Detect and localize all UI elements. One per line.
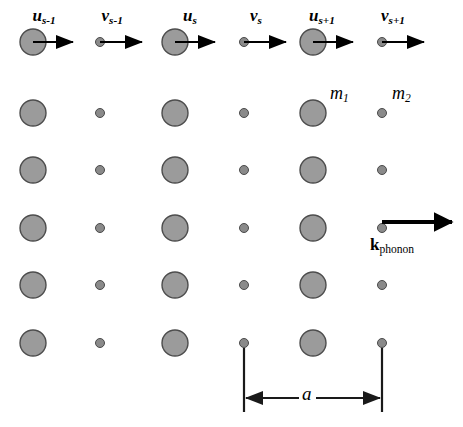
atom-small-r3-c2 <box>378 224 387 233</box>
displacement-label-u-0-symbol: u <box>33 6 42 25</box>
phonon-wavevector-label-subscript: phonon <box>379 243 414 256</box>
atom-large-r3-c0 <box>20 215 46 241</box>
displacement-label-u-0-subscript: s-1 <box>42 14 56 26</box>
mass-label-m1-subscript: 1 <box>343 92 349 104</box>
atom-small-r1-c0 <box>96 109 105 118</box>
displacement-label-v-5-subscript: s+1 <box>389 14 405 26</box>
atom-small-r5-c0 <box>96 339 105 348</box>
mass-label-m1-symbol: m <box>330 83 343 103</box>
atom-small-r4-c0 <box>96 281 105 290</box>
atom-large-r4-c1 <box>162 272 188 298</box>
displacement-label-v-1: vs-1 <box>102 7 123 26</box>
atom-large-r5-c2 <box>300 330 326 356</box>
mass-label-m2-symbol: m <box>392 83 405 103</box>
atom-small-r3-c0 <box>96 224 105 233</box>
displacement-label-v-1-subscript: s-1 <box>109 14 123 26</box>
atom-large-r4-c0 <box>20 272 46 298</box>
atom-small-r5-c1 <box>240 339 249 348</box>
displacement-label-u-0: us-1 <box>33 7 56 26</box>
phonon-wavevector-label: kphonon <box>370 236 414 256</box>
atom-large-r5-c0 <box>20 330 46 356</box>
atom-large-r2-c0 <box>20 157 46 183</box>
lattice-diagram: us-1vs-1usvsus+1vs+1m1m2kphonona <box>0 0 463 427</box>
atom-large-r4-c2 <box>300 272 326 298</box>
lattice-constant-dimension-layer <box>244 348 382 412</box>
atom-small-r2-c0 <box>96 166 105 175</box>
displacement-label-v-3: vs <box>250 7 262 26</box>
atom-large-r1-c1 <box>162 100 188 126</box>
lattice-canvas <box>0 0 463 427</box>
atom-large-r2-c2 <box>300 157 326 183</box>
atom-small-r5-c2 <box>378 339 387 348</box>
atom-large-r2-c1 <box>162 157 188 183</box>
atom-large-r1-c2 <box>300 100 326 126</box>
mass-label-m1: m1 <box>330 84 349 105</box>
atom-small-r2-c2 <box>378 166 387 175</box>
mass-label-m2-subscript: 2 <box>405 92 411 104</box>
atom-small-r4-c2 <box>378 281 387 290</box>
atom-small-r4-c1 <box>240 281 249 290</box>
lattice-constant-label: a <box>302 384 312 403</box>
lattice-constant-label-symbol: a <box>302 383 312 404</box>
atom-large-r3-c1 <box>162 215 188 241</box>
atom-small-r3-c1 <box>240 224 249 233</box>
atom-large-r1-c0 <box>20 100 46 126</box>
displacement-label-v-5-symbol: v <box>381 6 389 25</box>
atom-large-r5-c1 <box>162 330 188 356</box>
displacement-label-u-2-subscript: s <box>192 14 196 26</box>
displacement-label-v-3-symbol: v <box>250 6 258 25</box>
displacement-label-u-4: us+1 <box>309 7 335 26</box>
atom-small-r2-c1 <box>240 166 249 175</box>
displacement-label-u-4-subscript: s+1 <box>318 14 334 26</box>
atoms-layer <box>20 29 387 356</box>
displacement-label-v-3-subscript: s <box>258 14 262 26</box>
atom-small-r1-c1 <box>240 109 249 118</box>
displacement-label-u-2: us <box>183 7 197 26</box>
mass-label-m2: m2 <box>392 84 411 105</box>
atom-large-r3-c2 <box>300 215 326 241</box>
displacement-label-v-5: vs+1 <box>381 7 405 26</box>
displacement-label-v-1-symbol: v <box>102 6 110 25</box>
atom-small-r1-c2 <box>378 109 387 118</box>
